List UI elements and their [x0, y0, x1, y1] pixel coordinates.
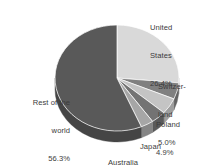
- pie-slice-label-rest-of-world: Rest of the world 56.3%: [6, 79, 70, 167]
- label-line-name-2: States: [150, 51, 202, 60]
- label-line-name: Australia: [108, 158, 164, 167]
- label-line-name-2: world: [6, 126, 70, 135]
- label-line-name-1: Rest of the: [6, 98, 70, 107]
- pie-slice-label-australia: Australia 3.3%: [108, 139, 164, 167]
- pie-chart-figure: United States 26.4% Switzer- land 5.0% P…: [0, 0, 217, 167]
- label-line-name-1: Switzer-: [158, 82, 212, 91]
- label-line-value: 56.3%: [6, 154, 70, 163]
- label-line-name-1: United: [150, 23, 202, 32]
